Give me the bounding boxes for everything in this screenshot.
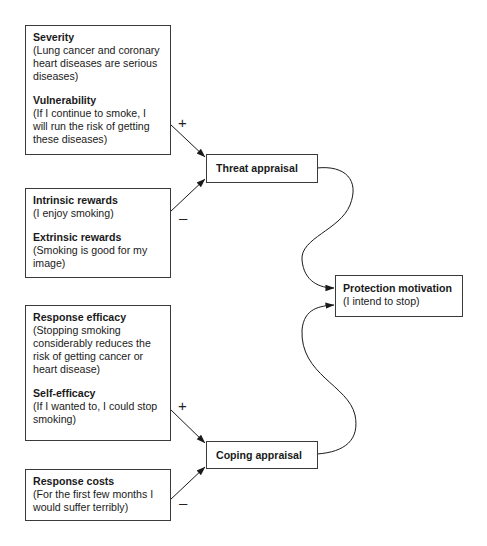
intrinsic-rewards-text: (I enjoy smoking) bbox=[33, 207, 163, 220]
threat-appraisal-node: Threat appraisal bbox=[206, 154, 318, 183]
minus-sign-coping: – bbox=[179, 495, 187, 510]
intrinsic-rewards-heading: Intrinsic rewards bbox=[33, 194, 163, 207]
protection-motivation-text: (I intend to stop) bbox=[343, 295, 455, 308]
response-costs-box: Response costs (For the first few months… bbox=[25, 469, 171, 521]
threat-appraisal-label: Threat appraisal bbox=[216, 162, 308, 175]
vulnerability-heading: Vulnerability bbox=[33, 94, 163, 107]
vulnerability-text: (If I continue to smoke, I will run the … bbox=[33, 107, 163, 146]
curve-threat-to-protection bbox=[302, 168, 353, 288]
arrow-severity-to-threat bbox=[170, 124, 205, 157]
extrinsic-rewards-heading: Extrinsic rewards bbox=[33, 231, 163, 244]
arrow-costs-to-coping bbox=[170, 467, 205, 500]
response-costs-text: (For the first few months I would suffer… bbox=[33, 488, 163, 514]
protection-motivation-node: Protection motivation (I intend to stop) bbox=[335, 275, 463, 317]
coping-appraisal-node: Coping appraisal bbox=[206, 441, 318, 469]
arrow-efficacy-to-coping bbox=[170, 409, 205, 443]
minus-sign-threat: – bbox=[179, 210, 187, 225]
response-costs-heading: Response costs bbox=[33, 475, 163, 488]
curve-coping-to-protection bbox=[302, 305, 356, 454]
severity-heading: Severity bbox=[33, 31, 163, 44]
rewards-box: Intrinsic rewards (I enjoy smoking) Extr… bbox=[25, 188, 171, 278]
response-efficacy-heading: Response efficacy bbox=[33, 311, 163, 324]
protection-motivation-label: Protection motivation bbox=[343, 282, 455, 295]
self-efficacy-text: (If I wanted to, I could stop smoking) bbox=[33, 400, 163, 426]
severity-text: (Lung cancer and coronary heart diseases… bbox=[33, 44, 163, 83]
self-efficacy-heading: Self-efficacy bbox=[33, 387, 163, 400]
plus-sign-coping: + bbox=[178, 398, 187, 413]
coping-appraisal-label: Coping appraisal bbox=[216, 449, 308, 462]
plus-sign-threat: + bbox=[178, 115, 187, 130]
severity-vulnerability-box: Severity (Lung cancer and coronary heart… bbox=[25, 25, 171, 155]
arrow-rewards-to-threat bbox=[170, 179, 205, 212]
response-efficacy-text: (Stopping smoking considerably reduces t… bbox=[33, 324, 163, 376]
efficacy-box: Response efficacy (Stopping smoking cons… bbox=[25, 305, 171, 441]
extrinsic-rewards-text: (Smoking is good for my image) bbox=[33, 244, 163, 270]
